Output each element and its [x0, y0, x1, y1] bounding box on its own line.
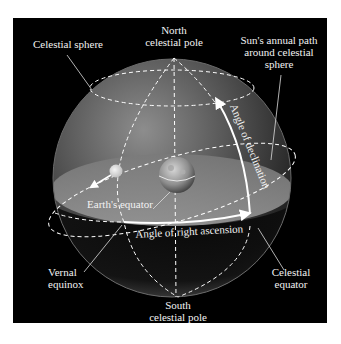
leader-celestial-sphere	[67, 55, 92, 90]
label-vernal-line2: equinox	[48, 278, 83, 290]
label-celestial-equator-line2: equator	[266, 278, 316, 290]
earth-globe	[159, 157, 195, 193]
earth-surface-feature	[181, 170, 186, 175]
label-north-pole-line1: North	[136, 24, 212, 36]
label-sun-path-line3: sphere	[236, 58, 322, 70]
sun-dot	[110, 165, 123, 178]
label-celestial-sphere: Celestial sphere	[33, 38, 101, 50]
label-earths-equator: Earth's equator	[84, 198, 156, 210]
label-celestial-equator-line1: Celestial	[266, 266, 316, 278]
label-sun-path-line2: around celestial	[236, 46, 322, 58]
label-sun-path-line1: Sun's annual path	[236, 34, 322, 46]
label-vernal-line1: Vernal	[48, 266, 77, 278]
label-south-pole-line2: celestial pole	[140, 311, 216, 323]
diagram-stage: Celestial sphere North celestial pole Su…	[0, 0, 341, 344]
label-north-pole-line2: celestial pole	[136, 36, 212, 48]
label-south-pole-line1: South	[140, 299, 216, 311]
earth-surface-feature	[168, 165, 174, 171]
